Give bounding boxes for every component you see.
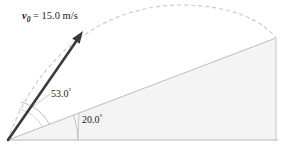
initial-velocity-label: v0 = 15.0 m/s xyxy=(22,11,78,24)
velocity-value: 15.0 xyxy=(42,10,60,21)
incline-angle-label: 20.0° xyxy=(82,114,102,125)
incline-angle-value: 20.0 xyxy=(82,114,100,125)
velocity-unit: m/s xyxy=(60,10,78,21)
launch-angle-value: 53.0 xyxy=(51,88,69,99)
launch-angle-degree-symbol: ° xyxy=(69,87,72,95)
launch-angle-label: 53.0° xyxy=(51,88,71,99)
incline-angle-degree-symbol: ° xyxy=(100,113,103,121)
physics-diagram-projectile-on-incline: v0 = 15.0 m/s 53.0° 20.0° xyxy=(0,0,283,148)
velocity-equals: = xyxy=(30,10,41,21)
